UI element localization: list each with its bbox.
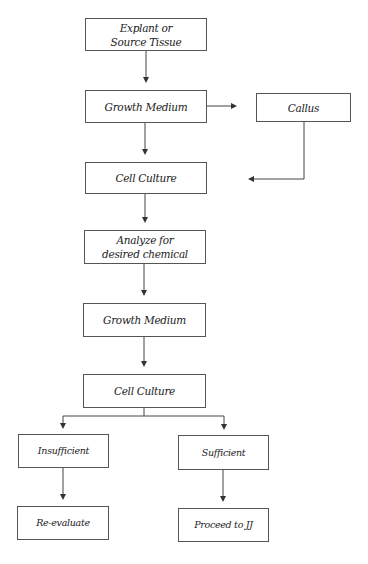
node-label: Insufficient	[38, 444, 89, 458]
node-analyze-line1: Analyze for	[102, 233, 188, 247]
node-label: Growth Medium	[105, 100, 188, 114]
node-growth-medium-2: Growth Medium	[83, 303, 206, 337]
node-label: Callus	[288, 101, 319, 115]
node-sufficient: Sufficient	[178, 435, 269, 470]
node-reevaluate: Re-evaluate	[17, 506, 109, 540]
node-analyze-line2: desired chemical	[102, 247, 188, 261]
node-cell-culture-2: Cell Culture	[83, 374, 206, 408]
node-callus: Callus	[256, 93, 351, 122]
node-growth-medium-1: Growth Medium	[85, 90, 207, 123]
node-label: Growth Medium	[103, 313, 186, 327]
node-label: Cell Culture	[114, 384, 175, 398]
node-explant-line2: Source Tissue	[111, 35, 182, 49]
node-insufficient: Insufficient	[18, 434, 109, 468]
node-analyze: Analyze fordesired chemical	[84, 230, 206, 264]
node-label: Re-evaluate	[36, 516, 90, 530]
node-explant: Explant orSource Tissue	[85, 18, 207, 51]
arrow-callus-to-culture	[251, 121, 304, 179]
node-cell-culture-1: Cell Culture	[85, 162, 207, 194]
node-explant-line1: Explant or	[111, 21, 182, 35]
node-label: Proceed to JJ	[194, 518, 253, 532]
node-proceed: Proceed to JJ	[178, 508, 269, 542]
node-label: Cell Culture	[115, 171, 176, 185]
connector-lines	[0, 0, 368, 564]
node-label: Sufficient	[202, 446, 246, 460]
